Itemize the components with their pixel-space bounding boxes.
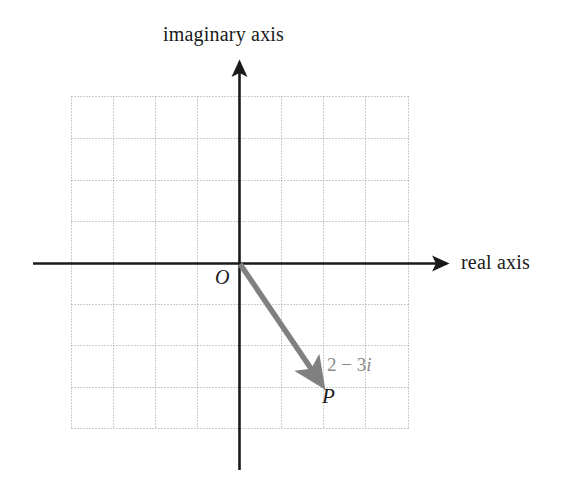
real-axis-label: real axis bbox=[461, 252, 530, 272]
complex-plane-plot bbox=[0, 0, 566, 493]
complex-number-label: 2 − 3i bbox=[327, 355, 372, 374]
point-label-p: P bbox=[322, 386, 335, 407]
complex-number-value: 2 − 3 bbox=[327, 354, 366, 375]
vector-op bbox=[240, 264, 322, 384]
imaginary-axis-label: imaginary axis bbox=[163, 24, 284, 44]
origin-label: O bbox=[215, 267, 229, 287]
complex-plane-figure: imaginary axis real axis O P 2 − 3i bbox=[0, 0, 566, 493]
imaginary-unit: i bbox=[366, 354, 371, 375]
